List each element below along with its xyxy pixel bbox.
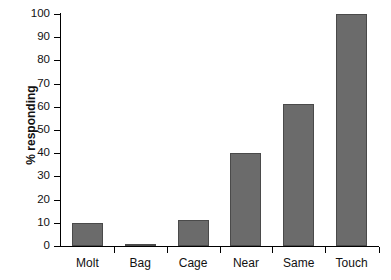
y-tick-mark <box>54 60 60 61</box>
bar <box>230 153 261 246</box>
y-tick-label: 90 <box>2 31 50 42</box>
y-tick-label: 80 <box>2 54 50 65</box>
bars-layer <box>61 14 378 246</box>
y-tick-mark <box>54 14 60 15</box>
y-tick-mark <box>54 37 60 38</box>
y-tick-mark <box>54 130 60 131</box>
y-tick-label: 50 <box>2 124 50 135</box>
x-tick-label: Near <box>220 256 273 270</box>
y-tick-label: 60 <box>2 101 50 112</box>
bar-chart: % responding 0102030405060708090100 Molt… <box>0 0 391 280</box>
x-tick-mark <box>220 247 221 253</box>
y-tick-mark <box>54 246 60 247</box>
y-tick-mark <box>54 200 60 201</box>
bar <box>336 14 367 246</box>
x-tick-mark <box>114 247 115 253</box>
bar <box>283 104 314 246</box>
y-tick-mark <box>54 107 60 108</box>
y-tick-mark <box>54 153 60 154</box>
y-tick-label: 20 <box>2 194 50 205</box>
bar <box>72 223 103 246</box>
y-tick-label: 100 <box>2 8 50 19</box>
x-tick-mark <box>272 247 273 253</box>
x-tick-label: Cage <box>167 256 220 270</box>
x-tick-label: Touch <box>325 256 378 270</box>
x-tick-label: Molt <box>61 256 114 270</box>
y-tick-mark <box>54 176 60 177</box>
y-tick-label: 0 <box>2 240 50 251</box>
y-tick-label: 70 <box>2 78 50 89</box>
bar <box>178 220 209 246</box>
y-tick-label: 40 <box>2 147 50 158</box>
x-tick-mark <box>325 247 326 253</box>
x-tick-label: Same <box>272 256 325 270</box>
x-tick-mark <box>379 247 380 253</box>
y-tick-label: 30 <box>2 170 50 181</box>
bar <box>125 244 156 246</box>
y-tick-label: 10 <box>2 217 50 228</box>
x-tick-mark <box>167 247 168 253</box>
y-tick-mark <box>54 84 60 85</box>
x-tick-label: Bag <box>114 256 167 270</box>
y-tick-mark <box>54 223 60 224</box>
